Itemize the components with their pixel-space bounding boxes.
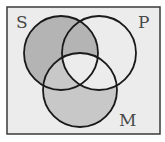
label-p: P [138,12,149,32]
label-s: S [16,12,28,32]
venn-diagram: S P M [0,0,165,142]
label-m: M [119,110,136,130]
